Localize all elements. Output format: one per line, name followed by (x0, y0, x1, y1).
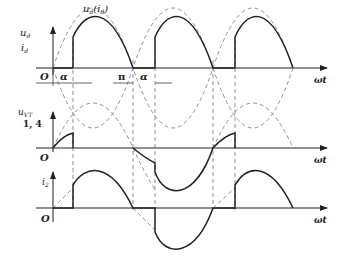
pi-label: π (118, 71, 125, 82)
panel-supply-current: i2 O ωt (36, 171, 328, 250)
waveform-diagram: ud id ud(id) O α π α ωt uVT 1, 4 O ωt i2… (0, 0, 341, 261)
guide-lines (73, 40, 235, 210)
reference-dashed (53, 188, 235, 230)
y-label-index: 1, 4 (23, 119, 42, 130)
panel-thyristor-voltage: uVT 1, 4 O ωt (18, 103, 328, 191)
y-label-ud: ud (20, 27, 30, 39)
y-label-i2: i2 (42, 177, 49, 188)
origin-label: O (40, 152, 49, 163)
curve-label: ud(id) (83, 3, 108, 15)
y-label-uvt: uVT (18, 107, 33, 118)
alpha-label-2: α (140, 71, 148, 82)
alpha-label-1: α (60, 71, 68, 82)
supply-current-waveform (53, 171, 293, 250)
x-label-omega-t: ωt (314, 215, 328, 225)
thyristor-voltage-waveform (53, 133, 235, 191)
origin-label: O (41, 213, 50, 224)
x-label-omega-t: ωt (314, 75, 328, 85)
panel-output: ud id ud(id) O α π α ωt (20, 3, 328, 128)
origin-label: O (40, 71, 49, 82)
x-label-omega-t: ωt (314, 155, 328, 165)
y-label-id: id (21, 42, 28, 54)
output-waveform (73, 16, 293, 68)
reference-sine-dashed (53, 103, 293, 190)
